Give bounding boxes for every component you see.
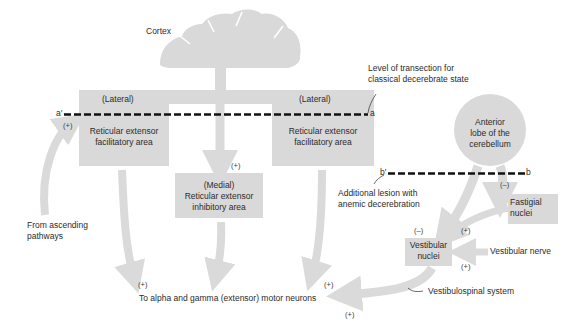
transection-line1: Level of transection for xyxy=(368,63,469,74)
fastigial-line1: Fastigial xyxy=(510,197,542,208)
lateral-left-label: (Lateral) xyxy=(102,94,134,105)
arrow-ascending-to-facilitatory xyxy=(44,123,72,215)
cerebellum-label: Anterior lobe of the cerebellum xyxy=(455,117,525,150)
ascending-pathways-label: From ascending pathways xyxy=(27,220,88,242)
facilitatory-right-line2: facilitatory area xyxy=(278,137,368,148)
medial-plus-sign: (+) xyxy=(231,160,240,171)
medial-line1: (Medial) xyxy=(176,180,262,191)
facilitatory-left-label: Reticular extensor facilitatory area xyxy=(84,126,164,148)
a-marker: a xyxy=(370,108,375,119)
additional-lesion-label: Additional lesion with anemic decerebrat… xyxy=(338,188,420,210)
ascending-line1: From ascending xyxy=(27,220,88,231)
facilitatory-left-line2: facilitatory area xyxy=(84,137,164,148)
medial-line3: inhibitory area xyxy=(176,202,262,213)
vestibular-minus-sign: (–) xyxy=(414,225,423,236)
cerebellum-line2: lobe of the xyxy=(455,128,525,139)
transection-label: Level of transection for classical decer… xyxy=(368,63,469,85)
facilitatory-left-line1: Reticular extensor xyxy=(84,126,164,137)
vestibular-nerve-label: Vestibular nerve xyxy=(490,246,551,257)
diagram-canvas xyxy=(0,0,581,333)
ascending-plus-sign: (+) xyxy=(63,120,72,131)
medial-line2: Reticular extensor xyxy=(176,191,262,202)
cortex-label: Cortex xyxy=(146,26,171,37)
arrow-left-facilitatory-to-motor xyxy=(122,170,134,278)
facilitatory-right-label: Reticular extensor facilitatory area xyxy=(278,126,368,148)
facilitatory-right-line1: Reticular extensor xyxy=(278,126,368,137)
cerebellum-line3: cerebellum xyxy=(455,139,525,150)
vestibular-label: Vestibular nuclei xyxy=(405,240,452,262)
medial-inhibitory-label: (Medial) Reticular extensor inhibitory a… xyxy=(176,180,262,213)
vestibulospinal-label: Vestibulospinal system xyxy=(428,286,514,297)
b-prime-marker: b′ xyxy=(380,167,386,178)
cortex-shape xyxy=(160,10,301,102)
a-prime-marker: a′ xyxy=(56,108,62,119)
additional-lesion-line2: anemic decerebration xyxy=(338,199,420,210)
b-marker: b xyxy=(526,167,531,178)
arrow-right-facilitatory-to-motor xyxy=(312,170,322,276)
motor-right-plus-sign: (+) xyxy=(324,279,333,290)
arrow-medial-to-motor xyxy=(216,222,221,276)
lateral-right-label: (Lateral) xyxy=(299,94,331,105)
vestibular-line1: Vestibular xyxy=(405,240,452,251)
vestibular-line2: nuclei xyxy=(405,251,452,262)
fastigial-plus-sign: (+) xyxy=(461,225,470,236)
motor-bottom-plus-sign: (+) xyxy=(345,309,354,320)
fastigial-line2: nuclei xyxy=(510,208,542,219)
additional-lesion-line1: Additional lesion with xyxy=(338,188,420,199)
cerebellum-line1: Anterior xyxy=(455,117,525,128)
arrow-vestibulospinal xyxy=(344,268,432,295)
vestibular-nerve-plus-sign: (+) xyxy=(461,261,470,272)
motor-neurons-label: To alpha and gamma (extensor) motor neur… xyxy=(139,293,316,304)
transection-line2: classical decerebrate state xyxy=(368,74,469,85)
fastigial-label: Fastigial nuclei xyxy=(510,197,542,219)
cerebellum-minus-sign: (–) xyxy=(500,179,509,190)
ascending-line2: pathways xyxy=(27,231,88,242)
motor-left-plus-sign: (+) xyxy=(138,279,147,290)
